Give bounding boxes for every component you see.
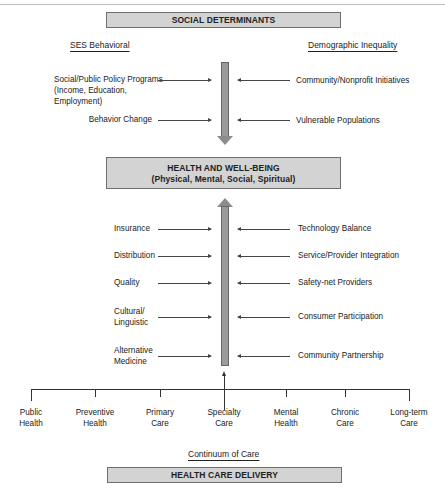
continuum-of-care-header: Continuum of Care (188, 449, 259, 459)
social-determinants-label: SOCIAL DETERMINANTS (172, 15, 276, 25)
arrow-left (238, 256, 290, 257)
delivery-right-item-safety-net: Safety-net Providers (298, 277, 372, 288)
arrow-left (238, 229, 290, 230)
health-wellbeing-title: HEALTH AND WELL-BEING (107, 163, 340, 174)
continuum-bracket (31, 389, 410, 390)
arrow-right (158, 317, 211, 318)
continuum-item-specialty-care: Specialty Care (194, 408, 254, 429)
bracket-tick (286, 389, 287, 397)
bracket-tick (345, 389, 346, 397)
continuum-item-preventive-health: Preventive Health (65, 408, 125, 429)
social-right-item-community: Community/Nonprofit Initiatives (296, 75, 409, 86)
delivery-left-item-alternative: Alternative Medicine (114, 345, 153, 367)
social-left-item-policy: Social/Public Policy Programs (Income, E… (54, 74, 163, 107)
arrow-left (238, 80, 290, 81)
delivery-left-item-quality: Quality (114, 277, 139, 288)
arrow-left (238, 356, 290, 357)
bracket-tick (409, 389, 410, 401)
delivery-left-item-cultural: Cultural/ Linguistic (114, 306, 148, 328)
delivery-left-item-distribution: Distribution (114, 250, 155, 261)
down-arrow-shaft (221, 62, 229, 138)
arrow-right (158, 80, 211, 81)
delivery-left-item-insurance: Insurance (114, 223, 150, 234)
continuum-item-public-health: Public Health (1, 408, 61, 429)
arrow-left (238, 283, 290, 284)
continuum-item-long-term-care: Long-term Care (379, 408, 439, 429)
up-arrow-shaft (221, 206, 229, 366)
delivery-right-item-consumer: Consumer Participation (298, 311, 383, 322)
bracket-connector (224, 374, 225, 410)
arrow-right (158, 229, 211, 230)
arrow-right (158, 283, 211, 284)
down-arrow-head (217, 136, 233, 145)
arrow-left (238, 120, 290, 121)
delivery-right-item-integration: Service/Provider Integration (298, 250, 399, 261)
continuum-item-chronic-care: Chronic Care (315, 408, 375, 429)
social-right-item-vulnerable: Vulnerable Populations (296, 115, 380, 126)
top-rule (0, 4, 445, 5)
arrow-right (158, 256, 211, 257)
health-care-delivery-box: HEALTH CARE DELIVERY (107, 467, 342, 483)
delivery-right-item-community-partnership: Community Partnership (298, 350, 384, 361)
continuum-item-primary-care: Primary Care (130, 408, 190, 429)
health-wellbeing-subtitle: (Physical, Mental, Social, Spiritual) (107, 174, 340, 185)
social-left-item-behavior: Behavior Change (80, 114, 152, 125)
bracket-tick (160, 389, 161, 397)
health-wellbeing-box: HEALTH AND WELL-BEING (Physical, Mental,… (106, 157, 341, 189)
health-care-delivery-label: HEALTH CARE DELIVERY (171, 470, 278, 480)
bracket-tick (31, 389, 32, 401)
arrow-left (238, 317, 290, 318)
demographic-inequality-header: Demographic Inequality (308, 40, 397, 50)
arrow-right (158, 356, 211, 357)
social-determinants-box: SOCIAL DETERMINANTS (106, 12, 341, 28)
ses-behavioral-header: SES Behavioral (70, 40, 130, 50)
bracket-tick (95, 389, 96, 397)
arrow-right (158, 120, 211, 121)
continuum-item-mental-health: Mental Health (256, 408, 316, 429)
connector-arrow-head (222, 371, 226, 376)
delivery-right-item-technology: Technology Balance (298, 223, 371, 234)
